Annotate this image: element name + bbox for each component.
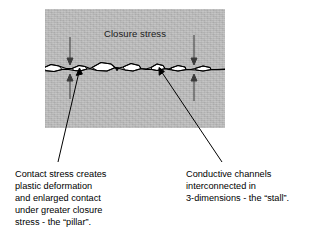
callout-pillar-line-2: plastic deformation — [15, 180, 106, 192]
leader-line-pillar — [58, 68, 82, 162]
callout-pillar-text: Contact stress creates plastic deformati… — [15, 168, 106, 228]
callout-pillar-line-1: Contact stress creates — [15, 168, 106, 180]
callout-stall-line-1: Conductive channels — [186, 168, 289, 180]
callout-pillar-line-4: under greater closure — [15, 204, 106, 216]
figure-closure-stress: Closure stress — [0, 0, 320, 235]
leader-line-stall — [159, 68, 222, 163]
callout-stall-text: Conductive channels interconnected in 3-… — [186, 168, 289, 204]
callout-stall-line-3: 3-dimensions - the “stall”. — [186, 192, 289, 204]
callout-pillar-line-3: and enlarged contact — [15, 192, 106, 204]
callout-pillar-line-5: stress - the “pillar”. — [15, 216, 106, 228]
callout-stall-line-2: interconnected in — [186, 180, 289, 192]
